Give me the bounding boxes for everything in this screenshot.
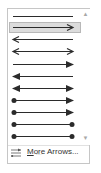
gallery-item-dot-dot[interactable] (9, 119, 81, 130)
scroll-down-icon[interactable]: ▼ (81, 134, 90, 143)
resize-grip[interactable]: .... (36, 151, 42, 155)
dot-arrow-solid-icon (9, 95, 81, 106)
dot-dot-2-icon (9, 131, 81, 142)
more-arrows-button[interactable]: More Arrows... (8, 146, 89, 160)
arrow-right-open-icon (9, 22, 81, 33)
arrow-double-solid-icon (9, 83, 81, 94)
gallery-item-dot-arrow-solid-2[interactable] (9, 107, 81, 118)
arrow-left-solid-icon (9, 71, 81, 82)
gallery-item-dot-arrow-solid[interactable] (9, 95, 81, 106)
scroll-up-icon[interactable]: ▲ (81, 10, 90, 19)
gallery-item-line-plain[interactable] (9, 11, 81, 22)
gallery-item-arrow-double-open[interactable] (9, 46, 81, 57)
line-plain-icon (9, 11, 81, 22)
gallery-item-arrow-left-open[interactable] (9, 34, 81, 45)
dot-arrow-solid-2-icon (9, 107, 81, 118)
dot-dot-icon (9, 119, 81, 130)
gallery-item-arrow-double-solid[interactable] (9, 83, 81, 94)
gallery-item-arrow-left-solid[interactable] (9, 71, 81, 82)
gallery-scrollbar[interactable]: ▲ ▼ (81, 9, 90, 145)
arrow-right-solid-icon (9, 59, 81, 70)
more-arrows-label: More Arrows... (27, 147, 79, 156)
arrow-left-open-icon (9, 34, 81, 45)
arrow-style-dropdown: ▲ ▼ More Arrows... (7, 8, 90, 164)
arrow-gallery (8, 9, 81, 145)
accelerator-key: M (27, 147, 34, 156)
arrow-options-icon (11, 148, 21, 158)
gallery-item-dot-dot-2[interactable] (9, 131, 81, 142)
arrow-double-open-icon (9, 46, 81, 57)
gallery-item-arrow-right-open[interactable] (9, 22, 81, 33)
gallery-item-arrow-right-solid[interactable] (9, 59, 81, 70)
